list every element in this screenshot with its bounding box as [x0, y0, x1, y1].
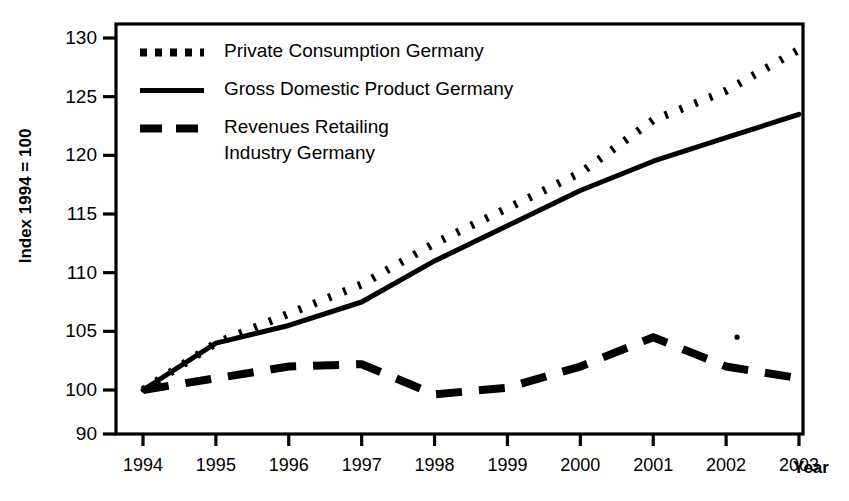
x-tick-label-1998: 1998 — [395, 456, 475, 474]
line-chart: Index 1994 = 100 Year 901001051101151201… — [0, 0, 849, 501]
y-tick-label-120: 120 — [37, 145, 97, 164]
x-tick-label-1995: 1995 — [176, 456, 256, 474]
x-tick-label-2001: 2001 — [613, 456, 693, 474]
legend-key-dotted-icon — [140, 48, 204, 55]
legend-item-1: Gross Domestic Product Germany — [140, 76, 610, 106]
legend-label-private-consumption-germany: Private Consumption Germany — [224, 38, 484, 63]
legend-item-0: Private Consumption Germany — [140, 38, 610, 68]
x-tick-label-1999: 1999 — [467, 456, 547, 474]
y-tick-label-100: 100 — [37, 380, 97, 399]
y-tick-label-130: 130 — [37, 28, 97, 47]
x-tick-label-1997: 1997 — [322, 456, 402, 474]
x-tick-label-2003: 2003 — [759, 456, 839, 474]
legend-item-2: Revenues Retailing Industry Germany — [140, 114, 610, 170]
x-tick-label-1996: 1996 — [249, 456, 329, 474]
chart-legend: Private Consumption GermanyGross Domesti… — [140, 38, 610, 178]
y-axis-title: Index 1994 = 100 — [16, 86, 36, 306]
y-tick-label-105: 105 — [37, 321, 97, 340]
legend-label-revenues-retailing-industry-germany: Revenues Retailing Industry Germany — [224, 114, 389, 166]
legend-key-dashed-icon — [140, 124, 204, 131]
y-tick-label-110: 110 — [37, 263, 97, 282]
y-tick-label-125: 125 — [37, 87, 97, 106]
legend-key-solid-icon — [140, 86, 204, 93]
y-tick-label-90: 90 — [37, 424, 97, 443]
annotation-stray-dot — [734, 335, 739, 340]
x-tick-label-2002: 2002 — [686, 456, 766, 474]
x-tick-label-2000: 2000 — [540, 456, 620, 474]
series-revenues-retailing-industry-germany — [143, 337, 799, 394]
x-tick-label-1994: 1994 — [103, 456, 183, 474]
y-tick-label-115: 115 — [37, 204, 97, 223]
legend-label-gross-domestic-product-germany: Gross Domestic Product Germany — [224, 76, 513, 101]
